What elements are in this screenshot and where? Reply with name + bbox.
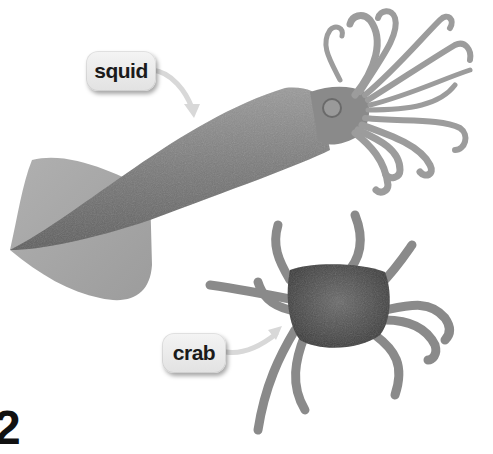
squid-label: squid: [86, 51, 156, 91]
page-number: 2: [0, 404, 21, 452]
squid-arrowhead: [184, 104, 200, 118]
illustration: [0, 0, 493, 454]
crab-label: crab: [162, 333, 226, 373]
squid-eye: [323, 99, 341, 117]
crab-image: [210, 215, 450, 430]
crab-arrow: [226, 334, 276, 353]
squid-arrow: [152, 70, 192, 108]
